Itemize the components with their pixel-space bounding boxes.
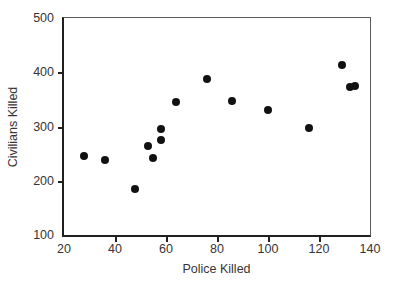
x-axis-tick-label: 60 — [159, 242, 173, 256]
data-point — [305, 124, 313, 132]
y-axis-tick-label: 100 — [33, 228, 54, 242]
x-axis-tick-label: 40 — [108, 242, 122, 256]
scatter-plot-figure: Civilians Killed 10020030040050020406080… — [0, 0, 393, 289]
x-axis-tick — [115, 235, 117, 242]
x-axis-tick-label: 140 — [360, 242, 381, 256]
y-axis-tick — [58, 127, 64, 129]
data-point — [338, 61, 346, 69]
y-axis-title-text: Civilians Killed — [6, 87, 20, 168]
x-axis-tick — [268, 235, 270, 242]
y-axis-tick-label: 200 — [33, 174, 54, 188]
data-point — [144, 142, 152, 150]
y-axis-tick-label: 400 — [33, 65, 54, 79]
x-axis-tick-label: 120 — [309, 242, 330, 256]
data-point — [264, 106, 272, 114]
plot-frame: 10020030040050020406080100120140 — [62, 17, 371, 237]
data-point — [172, 98, 180, 106]
data-point — [351, 82, 359, 90]
x-axis-tick-label: 20 — [57, 242, 71, 256]
data-point — [157, 125, 165, 133]
x-axis-tick — [166, 235, 168, 242]
x-axis-tick — [217, 235, 219, 242]
y-axis-title: Civilians Killed — [4, 17, 22, 237]
data-point — [149, 154, 157, 162]
x-axis-tick — [319, 235, 321, 242]
y-axis-tick-label: 500 — [33, 11, 54, 25]
y-axis-tick — [58, 181, 64, 183]
data-point — [157, 136, 165, 144]
data-point — [101, 156, 109, 164]
data-point — [80, 152, 88, 160]
data-point — [131, 185, 139, 193]
data-point — [228, 97, 236, 105]
plot-area — [64, 18, 370, 235]
x-axis-title: Police Killed — [62, 262, 371, 276]
y-axis-tick-label: 300 — [33, 120, 54, 134]
data-point — [203, 75, 211, 83]
y-axis-tick — [58, 72, 64, 74]
x-axis-tick-label: 100 — [258, 242, 279, 256]
x-axis-tick-label: 80 — [210, 242, 224, 256]
